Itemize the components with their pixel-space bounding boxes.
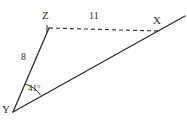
vertex-label-y: Y [2,104,10,115]
segment-zx [49,28,158,31]
side-label-zy: 8 [21,52,26,62]
segment-yx [13,31,158,112]
vertex-label-x: X [153,15,161,26]
vertex-label-z: Z [42,10,49,21]
side-label-zx: 11 [89,11,99,21]
segment-zy [13,28,49,112]
geometry-diagram: Z X Y 11 8 41° [0,0,187,121]
ray-yx-extension [158,16,185,31]
angle-label-y: 41° [28,84,41,93]
